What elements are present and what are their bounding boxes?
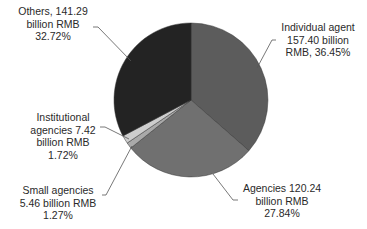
label-others-line2: billion RMB (12, 18, 94, 31)
label-individual-line2: 157.40 billion (270, 34, 366, 47)
label-institutional-line3: billion RMB (25, 136, 101, 149)
leader-line-small (102, 146, 132, 195)
leader-line-agencies (213, 174, 238, 200)
label-agencies-line2: billion RMB (236, 195, 328, 208)
label-institutional-line2: agencies 7.42 (25, 124, 101, 137)
label-small-agencies: Small agencies 5.46 billion RMB 1.27% (12, 184, 104, 222)
label-individual-line1: Individual agent (270, 21, 366, 34)
label-others: Others, 141.29 billion RMB 32.72% (12, 5, 94, 43)
label-institutional-agencies: Institutional agencies 7.42 billion RMB … (25, 111, 101, 161)
label-agencies-line3: 27.84% (236, 207, 328, 220)
label-individual-agent: Individual agent 157.40 billion RMB, 36.… (270, 21, 366, 59)
label-institutional-line1: Institutional (25, 111, 101, 124)
label-agencies: Agencies 120.24 billion RMB 27.84% (236, 182, 328, 220)
label-small-line2: 5.46 billion RMB (12, 197, 104, 210)
label-small-line3: 1.27% (12, 209, 104, 222)
pie-slices (114, 23, 268, 177)
label-individual-line3: RMB, 36.45% (270, 46, 366, 59)
label-others-line1: Others, 141.29 (12, 5, 94, 18)
label-small-line1: Small agencies (12, 184, 104, 197)
leader-line-others (93, 27, 131, 61)
label-institutional-line4: 1.72% (25, 149, 101, 162)
label-agencies-line1: Agencies 120.24 (236, 182, 328, 195)
label-others-line3: 32.72% (12, 30, 94, 43)
